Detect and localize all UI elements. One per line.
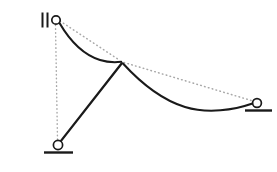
lower-dotted-chord-line <box>124 63 253 102</box>
diagram-canvas <box>0 0 277 172</box>
diagonal-strut-line <box>61 63 122 141</box>
right-pin-joint-icon <box>253 99 262 108</box>
structural-diagram-figure <box>0 0 277 172</box>
right-curved-member-path <box>123 64 253 111</box>
left-curved-member-path <box>60 23 122 62</box>
top-left-pin-joint-icon <box>52 16 60 24</box>
vertical-dotted-datum-line <box>56 25 58 140</box>
bottom-left-pin-joint-icon <box>53 140 62 149</box>
